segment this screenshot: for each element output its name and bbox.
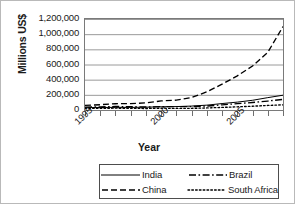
legend-item-china: China: [100, 182, 186, 197]
y-axis-tick-label: 1,200,000: [39, 13, 79, 23]
legend-label: South Africa: [228, 184, 278, 195]
x-axis-title: Year: [1, 141, 296, 153]
legend-row: China South Africa: [100, 182, 278, 197]
series-canvas: [85, 19, 283, 110]
series-line-china: [85, 27, 283, 106]
y-axis-tick-label: 600,000: [46, 59, 79, 69]
legend-item-india: India: [100, 167, 187, 182]
plot-area: [84, 18, 284, 111]
legend-label: India: [142, 169, 162, 180]
chart-legend: India Brazil China South Africa: [99, 164, 279, 199]
y-axis-tick-label: 800,000: [46, 43, 79, 53]
legend-swatch-dash-dot-icon: [187, 170, 229, 179]
x-axis-tick: [253, 111, 254, 116]
legend-item-south-africa: South Africa: [186, 182, 278, 197]
y-axis-tick-label: 200,000: [46, 89, 79, 99]
x-axis-tick: [176, 111, 177, 116]
x-axis-tick: [115, 111, 116, 116]
x-axis-tick: [222, 111, 223, 116]
x-axis-tick: [100, 111, 101, 116]
legend-swatch-dotted-icon: [186, 185, 228, 194]
legend-swatch-solid-icon: [100, 170, 142, 179]
chart-figure: Millions US$ 0200,000400,000600,000800,0…: [0, 0, 295, 204]
x-axis-tick: [207, 111, 208, 116]
legend-label: Brazil: [229, 169, 252, 180]
legend-item-brazil: Brazil: [187, 167, 278, 182]
x-axis-tick: [146, 111, 147, 116]
y-axis-tick-labels: 0200,000400,000600,000800,0001,000,0001,…: [15, 12, 79, 116]
y-axis-tick-label: 400,000: [46, 74, 79, 84]
x-axis: 199520002005: [84, 111, 285, 118]
y-axis-tick-label: 1,000,000: [39, 28, 79, 38]
x-axis-tick: [268, 111, 269, 116]
x-axis-tick: [131, 111, 132, 116]
legend-swatch-dashed-icon: [100, 185, 142, 194]
x-axis-tick: [192, 111, 193, 116]
x-axis-tick: [283, 111, 284, 116]
legend-row: India Brazil: [100, 167, 278, 182]
legend-label: China: [142, 184, 166, 195]
